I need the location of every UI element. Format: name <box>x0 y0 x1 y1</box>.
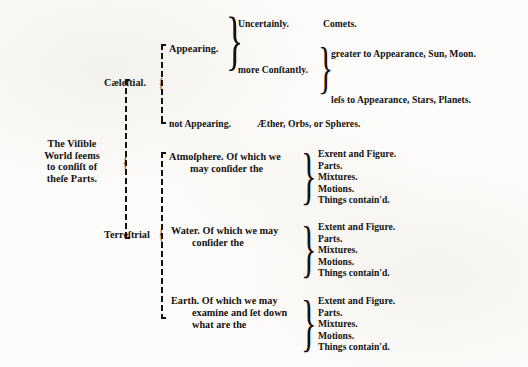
root-line-2: World ſeems <box>22 150 122 162</box>
root-line-1: The Viſible <box>22 138 122 150</box>
node-atmosphere-line-1: Atmoſphere. Of which we <box>169 151 281 163</box>
node-earth-line-1: Earth. Of which we may <box>171 295 287 307</box>
scanned-page: The Viſible World ſeems to conſiſt of th… <box>0 0 528 367</box>
root-node: The Viſible World ſeems to conſiſt of th… <box>22 138 122 184</box>
terrestrial-hook-icon: { <box>159 227 163 243</box>
water-brace-icon: } <box>301 217 316 280</box>
water-item-1: Extent and Figure. <box>318 221 395 233</box>
water-item-list: Extent and Figure. Parts. Mixtures. Moti… <box>318 221 395 279</box>
node-earth-label: Earth. Of which we may examine and ſet d… <box>171 295 287 330</box>
atmosphere-item-5: Things contain'd. <box>318 194 396 206</box>
leaf-uncertainly-value: Comets. <box>323 18 357 29</box>
branch-caelestial-label: Cæleſtial. <box>104 77 146 89</box>
earth-item-4: Motions. <box>318 330 395 342</box>
atmosphere-item-4: Motions. <box>318 183 396 195</box>
water-item-5: Things contain'd. <box>318 267 395 279</box>
root-branch-hook-icon: { <box>123 155 127 172</box>
node-atmosphere-label: Atmoſphere. Of which we may conſider the <box>169 151 281 175</box>
earth-item-2: Parts. <box>318 307 395 319</box>
root-line-3: to conſiſt of <box>22 161 122 173</box>
node-atmosphere-line-2: may conſider the <box>169 163 281 175</box>
water-item-3: Mixtures. <box>318 244 395 256</box>
water-item-4: Motions. <box>318 256 395 268</box>
node-earth-line-3: what are the <box>171 319 287 331</box>
node-earth-line-2: examine and ſet down <box>171 307 287 319</box>
atmosphere-item-2: Parts. <box>318 160 396 172</box>
atmosphere-item-1: Exrent and Figure. <box>318 148 396 160</box>
node-water-label: Water. Of which we may conſider the <box>171 225 278 249</box>
earth-item-list: Extent and Figure. Parts. Mixtures. Moti… <box>318 295 395 353</box>
leaf-less-to-appearance: leſs to Appearance, Stars, Planets. <box>331 94 471 105</box>
branch-terrestrial-label: Terreſtrial <box>104 229 150 241</box>
node-water-line-1: Water. Of which we may <box>171 225 278 237</box>
root-line-4: theſe Parts. <box>22 173 122 185</box>
leaf-greater-to-appearance: greater to Appearance, Sun, Moon. <box>331 48 476 59</box>
leaf-more-constantly-label: more Conſtantly. <box>238 64 308 75</box>
atmosphere-item-list: Exrent and Figure. Parts. Mixtures. Moti… <box>318 148 396 206</box>
earth-item-5: Things contain'd. <box>318 341 395 353</box>
leaf-uncertainly-label: Uncertainly. <box>238 18 289 29</box>
node-water-line-2: conſider the <box>171 237 278 249</box>
earth-brace-icon: } <box>301 291 316 354</box>
leaf-not-appearing-value: Æther, Orbs, or Spheres. <box>257 118 360 129</box>
node-appearing-label: Appearing. <box>169 43 218 55</box>
earth-item-1: Extent and Figure. <box>318 295 395 307</box>
earth-item-3: Mixtures. <box>318 318 395 330</box>
caelestial-hook-icon: { <box>159 76 163 91</box>
atmosphere-brace-icon: } <box>301 144 316 207</box>
water-item-2: Parts. <box>318 233 395 245</box>
leaf-not-appearing-label: not Appearing. <box>169 118 231 129</box>
atmosphere-item-3: Mixtures. <box>318 171 396 183</box>
